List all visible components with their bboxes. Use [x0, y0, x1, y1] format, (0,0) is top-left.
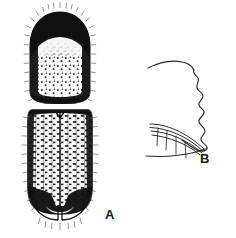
pronotum-elytra-gap [28, 104, 92, 108]
figure-a-caption: A [105, 208, 115, 221]
figure-b-caption: B [200, 152, 210, 165]
figure-plate: A B A [0, 0, 236, 238]
illustration-canvas: A B [0, 0, 236, 238]
